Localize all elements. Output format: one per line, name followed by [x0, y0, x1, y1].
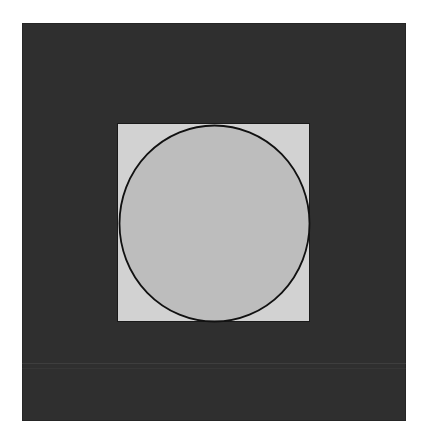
- scan-streak: [22, 363, 406, 364]
- inner-light-square: [117, 123, 310, 322]
- inscribed-circle: [118, 124, 311, 323]
- scan-streak: [22, 368, 406, 369]
